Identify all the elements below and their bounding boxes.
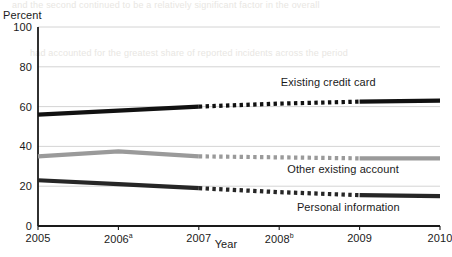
x-tick-label: 2008b [265,232,294,245]
x-tick-label: 2010 [428,232,452,244]
series-2 [38,180,440,196]
x-tick-label: 2006a [104,232,133,245]
x-axis-title: Year [215,238,238,250]
series-label-0: Existing credit card [281,76,376,88]
x-tick-label: 2007 [186,232,211,244]
series-solid-segment-early [38,151,199,156]
series-solid-segment-early [38,180,199,188]
series-solid-segment-early [38,107,199,115]
series-label-2: Personal information [297,201,400,213]
x-tick-footnote: a [129,232,133,239]
series-solid-segment-late [360,101,440,102]
series-dotted-segment [199,102,360,107]
series-label-1: Other existing account [287,163,399,175]
x-tick-label: 2009 [347,232,372,244]
x-tick-footnote: b [290,232,294,239]
series-solid-segment-late [360,195,440,196]
series-dotted-segment [199,188,360,195]
x-tick-label: 2005 [26,232,51,244]
series-1 [38,151,440,158]
series-0 [38,101,440,115]
series-dotted-segment [199,156,360,158]
